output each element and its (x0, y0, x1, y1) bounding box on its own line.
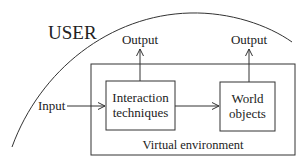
input-label: Input (38, 98, 66, 113)
virtual-environment-label: Virtual environment (143, 138, 244, 152)
user-label: USER (48, 22, 97, 43)
interaction-output-label: Output (122, 32, 159, 47)
world-output-label: Output (231, 32, 268, 47)
interaction-label-line2: techniques (113, 105, 169, 120)
interaction-label-line1: Interaction (112, 90, 169, 105)
diagram-canvas: USER Virtual environment Interaction tec… (0, 0, 305, 162)
world-label-line2: objects (229, 106, 266, 121)
world-label-line1: World (231, 91, 264, 106)
